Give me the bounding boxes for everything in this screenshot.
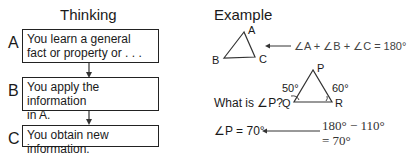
- angle-q-label: 50°: [282, 82, 299, 94]
- step-a-text-line2: fact or property or . . .: [27, 46, 154, 60]
- vertex-q-label: Q: [282, 97, 291, 109]
- answer-text: ∠P = 70°: [214, 124, 265, 138]
- vertex-c-label: C: [259, 53, 267, 65]
- step-c-letter: C: [8, 130, 20, 148]
- step-c-text-line1: You obtain new information.: [27, 128, 154, 156]
- example-title: Example: [214, 6, 272, 23]
- vertex-b-label: B: [212, 54, 219, 66]
- step-b-box: You apply the information in A.: [22, 77, 159, 111]
- calc-line2: = 70°: [322, 133, 351, 149]
- step-a-letter: A: [8, 34, 19, 52]
- step-b-text-line2: in A.: [27, 108, 154, 122]
- step-b-text-line1: You apply the information: [27, 80, 154, 108]
- vertex-r-label: R: [335, 97, 343, 109]
- angle-r-label: 60°: [332, 82, 349, 94]
- question-text: What is ∠P?: [214, 96, 283, 110]
- step-b-letter: B: [8, 82, 19, 100]
- vertex-p-label: P: [317, 62, 324, 74]
- vertex-a-label: A: [248, 24, 255, 36]
- calc-line1: 180° − 110°: [322, 118, 385, 134]
- step-a-text-line1: You learn a general: [27, 32, 154, 46]
- step-c-box: You obtain new information.: [22, 125, 159, 147]
- step-a-box: You learn a general fact or property or …: [22, 29, 159, 63]
- thinking-title: Thinking: [60, 6, 117, 23]
- angle-sum-equation: ∠A + ∠B + ∠C = 180°: [294, 40, 406, 53]
